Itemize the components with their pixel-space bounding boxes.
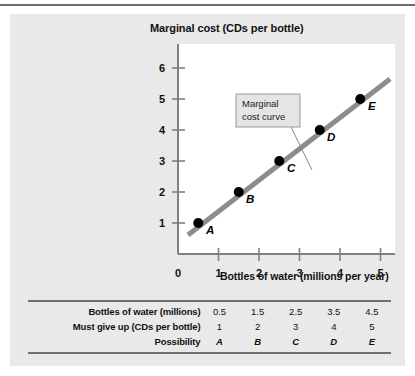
table-row-label-possibility: Possibility [28,334,200,349]
marginal-cost-plot: 1 2 3 4 5 6 0 1 2 3 4 5 [10,14,405,296]
table-cell-giveup-c: 3 [277,319,315,334]
data-point-b [234,187,244,197]
y-tick-label-4: 4 [159,124,166,136]
table-row: Possibility A B C D E [28,334,391,349]
plot-background [178,44,395,254]
table-row-label-giveup: Must give up (CDs per bottle) [28,319,200,334]
data-point-d [315,125,325,135]
possibilities-table: Bottles of water (millions) 0.5 1.5 2.5 … [28,304,391,349]
table-cell-giveup-b: 2 [239,319,277,334]
data-point-label-c: C [287,162,296,174]
table-row: Bottles of water (millions) 0.5 1.5 2.5 … [28,304,391,319]
table-cell-giveup-d: 4 [315,319,353,334]
table-bottom-rule [28,352,391,354]
y-tick-label-2: 2 [159,186,165,198]
table-cell-possibility-a: A [200,334,238,349]
y-tick-label-5: 5 [159,93,165,105]
callout-text-line1: Marginal [242,98,278,109]
x-tick-label-0: 0 [175,267,181,279]
table-row: Must give up (CDs per bottle) 1 2 3 4 5 [28,319,391,334]
table-cell-giveup-e: 5 [353,319,391,334]
table-cell-possibility-b: B [239,334,277,349]
table-cell-bottles-e: 4.5 [353,304,391,319]
y-tick-labels: 1 2 3 4 5 6 [159,62,166,229]
x-axis-title: Bottles of water (millions per year) [220,270,389,282]
table-cell-bottles-c: 2.5 [277,304,315,319]
data-point-label-d: D [327,131,335,143]
y-tick-label-1: 1 [159,217,165,229]
data-point-label-e: E [368,100,376,112]
data-point-c [274,156,284,166]
data-table-area: Bottles of water (millions) 0.5 1.5 2.5 … [10,296,405,366]
data-point-label-a: A [205,224,214,236]
chart-area: Marginal cost (CDs per bottle) 1 2 3 [10,14,405,296]
table-cell-possibility-e: E [353,334,391,349]
figure-container: Marginal cost (CDs per bottle) 1 2 3 [0,0,415,376]
table-cell-possibility-c: C [277,334,315,349]
table-cell-bottles-d: 3.5 [315,304,353,319]
table-cell-bottles-b: 1.5 [239,304,277,319]
y-tick-label-6: 6 [159,62,165,74]
callout-text-line2: cost curve [242,111,285,122]
table-cell-giveup-a: 1 [200,319,238,334]
data-point-a [193,218,203,228]
data-point-e [355,94,365,104]
table-row-label-bottles: Bottles of water (millions) [28,304,200,319]
table-cell-possibility-d: D [315,334,353,349]
table-cell-bottles-a: 0.5 [200,304,238,319]
y-tick-label-3: 3 [159,155,165,167]
table-top-rule [28,300,391,302]
top-divider-rule [0,4,415,6]
data-point-label-b: B [246,193,254,205]
